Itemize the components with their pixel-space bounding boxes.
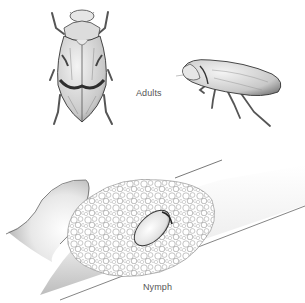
head: [70, 10, 94, 22]
spittlebug-illustration: [0, 0, 305, 303]
adult-side-view: [176, 60, 281, 126]
nymph-scene: [6, 160, 305, 300]
adult-dorsal-view: [50, 10, 112, 124]
nymph-label: Nymph: [143, 282, 172, 292]
adults-label: Adults: [136, 88, 162, 98]
pronotum: [64, 21, 100, 41]
